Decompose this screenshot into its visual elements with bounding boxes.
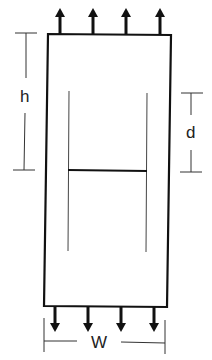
height-label: h xyxy=(20,87,29,106)
bottom-load-arrows xyxy=(50,306,159,332)
arrow-up-icon xyxy=(88,8,98,34)
arrow-down-icon xyxy=(83,306,93,332)
top-load-arrows xyxy=(55,8,165,35)
arrow-up-icon xyxy=(121,8,131,34)
crack-line xyxy=(68,170,147,171)
crack-length-label: d xyxy=(186,123,195,142)
crack-geometry xyxy=(68,91,147,252)
specimen-diagram: h d W xyxy=(0,0,212,360)
arrow-down-icon xyxy=(116,307,126,332)
right-guide-line xyxy=(146,93,147,252)
arrow-up-icon xyxy=(155,8,165,35)
width-label: W xyxy=(91,333,107,352)
arrow-up-icon xyxy=(55,8,65,34)
arrow-down-icon xyxy=(50,306,60,332)
arrow-down-icon xyxy=(149,307,159,332)
